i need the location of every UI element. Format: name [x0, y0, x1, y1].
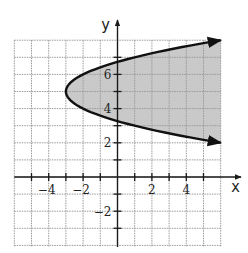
coordinate-plane: −4−224642−2 x y: [0, 0, 248, 253]
x-tick-label: −4: [38, 183, 56, 197]
x-axis-label: x: [231, 178, 240, 196]
y-tick-label: 4: [104, 102, 112, 116]
y-tick-label: 6: [104, 68, 112, 82]
y-tick-label: 2: [104, 136, 112, 150]
x-tick-label: 4: [182, 183, 190, 197]
y-tick-label: −2: [94, 205, 112, 219]
x-tick-label: −2: [72, 183, 90, 197]
x-tick-label: 2: [148, 183, 156, 197]
y-axis-label: y: [101, 16, 110, 34]
